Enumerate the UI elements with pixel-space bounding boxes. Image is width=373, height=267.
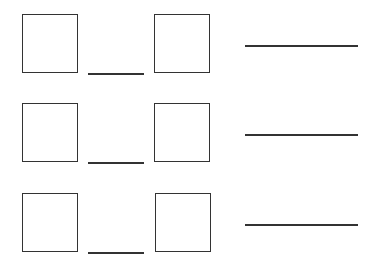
answer-box-left-row-3[interactable] [22, 193, 78, 252]
answer-box-left-row-1[interactable] [22, 14, 78, 73]
answer-box-right-row-1[interactable] [154, 14, 210, 73]
blank-line-short-row-1[interactable] [88, 73, 144, 75]
answer-line-row-1[interactable] [245, 45, 358, 47]
answer-line-row-2[interactable] [245, 134, 358, 136]
answer-box-right-row-2[interactable] [154, 103, 210, 162]
blank-line-short-row-2[interactable] [88, 162, 144, 164]
blank-line-short-row-3[interactable] [88, 252, 144, 254]
answer-box-left-row-2[interactable] [22, 103, 78, 162]
answer-box-right-row-3[interactable] [155, 193, 211, 252]
answer-line-row-3[interactable] [245, 224, 358, 226]
